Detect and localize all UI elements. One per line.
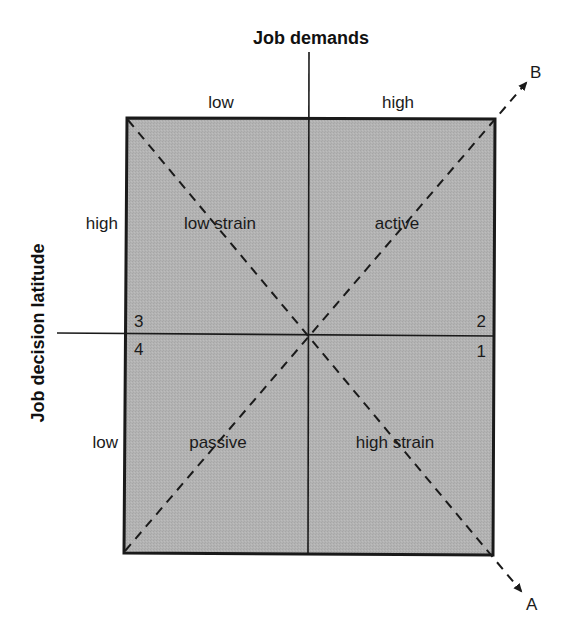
y-axis-low-label: low — [92, 433, 118, 452]
quadrant-high-strain: high strain — [356, 433, 434, 452]
quadrant-active: active — [375, 214, 419, 233]
diagonal-b-label: B — [530, 63, 541, 82]
x-axis-low-label: low — [208, 93, 234, 112]
corner-number-2: 2 — [477, 312, 486, 331]
x-axis-title: Job demands — [253, 28, 369, 48]
corner-number-4: 4 — [134, 340, 143, 359]
y-axis-high-label: high — [86, 214, 118, 233]
job-strain-diagram: Job demands low high Job decision latitu… — [0, 0, 566, 630]
quadrant-low-strain: low strain — [184, 214, 256, 233]
quadrant-passive: passive — [189, 433, 247, 452]
corner-number-3: 3 — [134, 312, 143, 331]
corner-number-1: 1 — [477, 342, 486, 361]
y-axis-title: Job decision latitude — [28, 243, 48, 422]
x-axis-high-label: high — [382, 93, 414, 112]
vertical-axis-line — [308, 52, 309, 554]
diagonal-a-label: A — [526, 595, 538, 614]
